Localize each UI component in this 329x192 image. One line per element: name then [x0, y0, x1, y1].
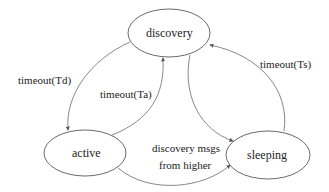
edge-discovery-sleeping — [188, 55, 233, 141]
edge-label-timeout-ts: timeout(Ts) — [260, 59, 311, 70]
edge-label-from-higher: from higher — [159, 160, 211, 171]
edge-label-timeout-ta: timeout(Ta) — [100, 89, 152, 100]
node-active-label: active — [72, 147, 101, 159]
edge-label-discovery-msgs: discovery msgs — [152, 143, 220, 154]
node-discovery-label: discovery — [146, 27, 193, 39]
edge-discovery-active — [68, 42, 130, 130]
node-sleeping-label: sleeping — [247, 149, 287, 161]
state-diagram: discovery active sleeping timeout(Td) ti… — [0, 0, 329, 192]
edge-label-timeout-td: timeout(Td) — [18, 75, 71, 86]
